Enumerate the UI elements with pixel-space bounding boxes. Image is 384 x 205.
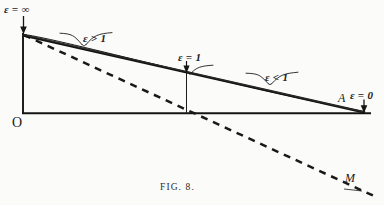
figure-8-container: ε = ∞ ε > 1 ε = 1 ε < 1 A ε = 0 O M FIG.…: [0, 0, 384, 205]
label-epsilon-greater-than-one: ε > 1: [83, 33, 106, 44]
label-epsilon-equals-zero: ε = 0: [350, 90, 373, 101]
label-point-a: A: [338, 92, 345, 104]
figure-caption: FIG. 8.: [160, 183, 195, 193]
arrow-epsilon-infinity: [20, 16, 27, 34]
label-epsilon-less-than-one: ε < 1: [265, 72, 288, 83]
label-origin: O: [12, 116, 22, 130]
label-epsilon-infinity: ε = ∞: [4, 4, 30, 15]
label-point-m: M: [345, 172, 355, 184]
curve-secondary-line: [24, 35, 364, 112]
label-epsilon-equals-one: ε = 1: [178, 52, 201, 63]
figure-drawing: [0, 0, 384, 205]
